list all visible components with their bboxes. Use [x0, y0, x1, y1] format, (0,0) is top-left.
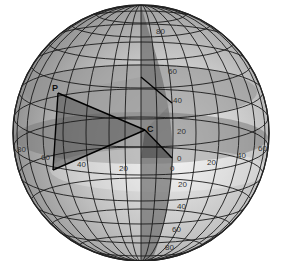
lon-label-20e: 20	[207, 158, 216, 167]
lon-label-80w: 80	[17, 145, 26, 154]
lat-label-80s: 80	[165, 243, 174, 252]
lon-label-60e: 60	[258, 144, 267, 153]
lat-label-0: 0	[177, 154, 182, 163]
lon-label-20w: 20	[119, 164, 128, 173]
lat-label-20n: 20	[177, 127, 186, 136]
lat-label-60n: 60	[168, 67, 177, 76]
lat-label-40s: 40	[177, 202, 186, 211]
lat-label-80n: 80	[156, 27, 165, 36]
lat-label-40n: 40	[173, 96, 182, 105]
point-p-label: P	[52, 83, 58, 93]
lon-label-40e: 40	[237, 151, 246, 160]
lat-label-20s: 20	[178, 180, 187, 189]
globe-diagram: P C 80 60 40 20 0 20 40 60 80 80 60 40 2…	[0, 0, 282, 261]
lon-label-60w: 60	[41, 153, 50, 162]
point-c-label: C	[147, 124, 154, 134]
lon-label-40w: 40	[77, 160, 86, 169]
lat-label-60s: 60	[172, 225, 181, 234]
lon-label-0: 0	[170, 164, 175, 173]
